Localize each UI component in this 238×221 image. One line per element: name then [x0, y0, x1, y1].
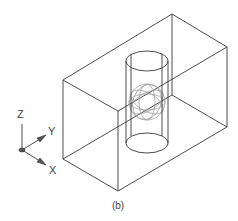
z-axis-label: Z — [17, 108, 24, 120]
y-axis-line — [22, 139, 40, 150]
y-axis-label: Y — [48, 125, 56, 137]
x-arrow-icon — [37, 158, 46, 165]
box-wireframe — [63, 14, 227, 191]
box-edge-bottom-left — [63, 159, 118, 191]
x-axis-line — [22, 150, 40, 161]
sphere-wireframe — [127, 80, 167, 123]
origin-marker-icon — [19, 148, 25, 152]
ucs-icon: Z Y X — [17, 108, 57, 176]
box-edge-back-bottom-left — [63, 95, 172, 159]
x-axis-label: X — [49, 164, 57, 176]
box-edge-back-bottom-right — [172, 95, 227, 127]
box-top-face — [63, 14, 227, 111]
diagram-canvas: Z Y X (b) — [0, 0, 238, 221]
box-edge-bottom-right — [118, 127, 227, 191]
y-arrow-icon — [37, 135, 46, 142]
figure-caption: (b) — [112, 200, 124, 211]
